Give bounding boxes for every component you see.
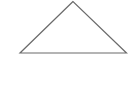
triangle-diagram	[0, 0, 132, 87]
triangle-shape	[20, 2, 127, 54]
diagram-canvas	[0, 0, 132, 87]
